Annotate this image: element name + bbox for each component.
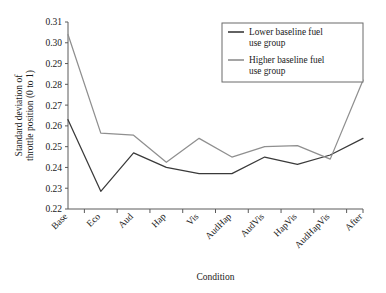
legend-label: Higher baseline fuel (249, 55, 325, 65)
line-chart: 0.220.230.240.250.260.270.280.290.300.31… (0, 0, 386, 293)
x-axis-title: Condition (196, 272, 234, 282)
y-tick-label: 0.31 (45, 17, 62, 27)
x-axis-title: Condition (196, 272, 234, 282)
y-tick-label: 0.28 (45, 80, 62, 90)
y-tick-label: 0.25 (45, 142, 62, 152)
y-axis-title: Standard deviation ofthrottle position (… (14, 70, 36, 161)
y-tick-label: 0.30 (45, 38, 62, 48)
y-axis-title-line: Standard deviation of (14, 74, 24, 157)
y-tick-label: 0.23 (45, 184, 62, 194)
y-tick-label: 0.29 (45, 59, 62, 69)
legend-label: use group (249, 66, 286, 76)
y-tick-label: 0.26 (45, 121, 62, 131)
legend-label: use group (249, 38, 286, 48)
legend-label: Lower baseline fuel (249, 27, 323, 37)
y-tick-label: 0.27 (45, 101, 62, 111)
chart-canvas: 0.220.230.240.250.260.270.280.290.300.31… (0, 0, 386, 293)
y-axis-title-line: throttle position (0 to 1) (25, 70, 36, 161)
legend: Lower baseline fueluse groupHigher basel… (222, 23, 363, 82)
y-tick-label: 0.24 (45, 163, 62, 173)
